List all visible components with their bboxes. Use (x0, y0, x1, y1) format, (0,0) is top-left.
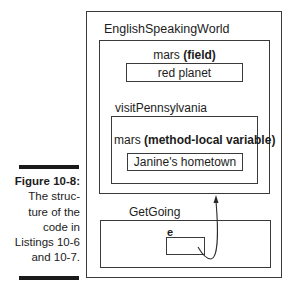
arrowhead-icon (214, 195, 219, 203)
reference-arrow (0, 0, 301, 287)
